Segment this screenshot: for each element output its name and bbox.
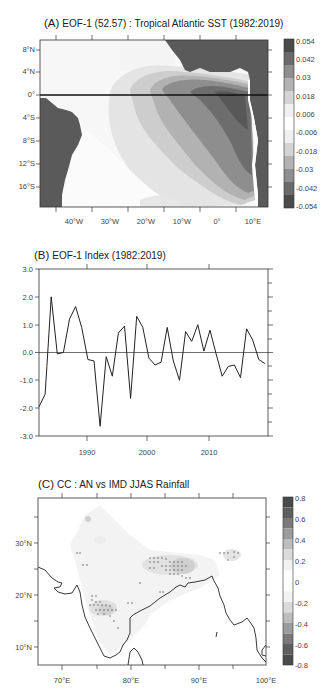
svg-text:-2.0: -2.0: [20, 404, 33, 413]
svg-text:-1.0: -1.0: [20, 376, 33, 385]
svg-text:10°W: 10°W: [173, 217, 192, 226]
svg-text:0.018: 0.018: [296, 92, 315, 101]
panel-a-title-text: EOF-1 (52.57) : Tropical Atlantic SST (1…: [62, 18, 283, 29]
svg-text:0.054: 0.054: [296, 37, 315, 46]
svg-text:0.4: 0.4: [295, 536, 305, 545]
panel-a: (A)EOF-1 (52.57) : Tropical Atlantic SST…: [19, 17, 318, 226]
panel-a-title: (A)EOF-1 (52.57) : Tropical Atlantic SST…: [44, 17, 283, 29]
panel-c-letter: (C): [38, 478, 54, 490]
figure-canvas: (A)EOF-1 (52.57) : Tropical Atlantic SST…: [0, 0, 330, 689]
svg-text:20°N: 20°N: [15, 591, 32, 600]
svg-text:30°N: 30°N: [15, 539, 32, 548]
svg-text:8°S: 8°S: [23, 136, 35, 145]
panel-c-x-axis: 70°E 80°E 90°E 100°E: [54, 676, 276, 685]
svg-text:-0.006: -0.006: [296, 128, 317, 137]
panel-b: (B)EOF-1 Index (1982:2019) 3.0 2.0 1.0 0…: [20, 249, 273, 457]
svg-text:0.006: 0.006: [296, 110, 315, 119]
svg-text:0°: 0°: [28, 90, 35, 99]
svg-text:70°E: 70°E: [54, 676, 70, 685]
svg-text:-0.03: -0.03: [296, 165, 313, 174]
svg-text:8°N: 8°N: [22, 45, 35, 54]
panel-b-x-axis: 1990 2000 2010: [79, 448, 218, 457]
sst-eof-map: [40, 40, 268, 207]
panel-c: (C)CC : AN vs IMD JJAS Rainfall: [15, 478, 308, 685]
svg-text:4°S: 4°S: [23, 113, 35, 122]
svg-text:-0.018: -0.018: [296, 147, 317, 156]
svg-text:2.0: 2.0: [23, 293, 33, 302]
svg-text:2010: 2010: [201, 448, 218, 457]
svg-text:10°N: 10°N: [15, 643, 32, 652]
panel-b-letter: (B): [34, 249, 50, 261]
svg-text:0°: 0°: [213, 217, 220, 226]
svg-text:0.0: 0.0: [23, 348, 33, 357]
svg-text:40°W: 40°W: [65, 217, 84, 226]
panel-b-title: (B)EOF-1 Index (1982:2019): [34, 249, 166, 261]
svg-text:0.03: 0.03: [296, 73, 311, 82]
panel-a-letter: (A): [44, 17, 60, 29]
svg-text:-0.054: -0.054: [296, 202, 317, 211]
panel-b-title-text: EOF-1 Index (1982:2019): [52, 250, 165, 261]
svg-text:-0.4: -0.4: [295, 620, 308, 629]
svg-text:20°W: 20°W: [137, 217, 156, 226]
svg-text:1990: 1990: [79, 448, 96, 457]
svg-text:-0.042: -0.042: [296, 184, 317, 193]
panel-c-colorbar: 0.8 0.6 0.4 0.2 0 -0.2 -0.4 -0.6 -0.8: [283, 494, 308, 670]
svg-text:90°E: 90°E: [191, 676, 207, 685]
svg-text:30°W: 30°W: [101, 217, 120, 226]
panel-c-title: (C)CC : AN vs IMD JJAS Rainfall: [38, 478, 189, 490]
svg-text:2000: 2000: [139, 448, 156, 457]
panel-a-colorbar: 0.054 0.042 0.03 0.018 0.006 -0.006 -0.0…: [284, 37, 317, 211]
rainfall-correlation-map: [38, 498, 266, 665]
svg-text:12°S: 12°S: [19, 159, 35, 168]
svg-text:-0.6: -0.6: [295, 641, 308, 650]
svg-text:0: 0: [295, 578, 299, 587]
svg-text:0.6: 0.6: [295, 515, 305, 524]
svg-text:1.0: 1.0: [23, 321, 33, 330]
svg-text:3.0: 3.0: [23, 265, 33, 274]
svg-text:0.2: 0.2: [295, 557, 305, 566]
svg-text:16°S: 16°S: [19, 182, 35, 191]
svg-text:80°E: 80°E: [123, 676, 139, 685]
svg-text:0.042: 0.042: [296, 55, 315, 64]
panel-c-title-text: CC : AN vs IMD JJAS Rainfall: [57, 479, 189, 490]
panel-a-y-axis: 8°N 4°N 0° 4°S 8°S 12°S 16°S: [19, 45, 35, 191]
svg-text:10°E: 10°E: [245, 217, 261, 226]
svg-text:100°E: 100°E: [256, 676, 277, 685]
svg-text:0.8: 0.8: [295, 494, 305, 503]
panel-a-x-axis: 40°W 30°W 20°W 10°W 0° 10°E: [65, 217, 261, 226]
svg-text:4°N: 4°N: [22, 67, 35, 76]
svg-text:-0.8: -0.8: [295, 661, 308, 670]
svg-text:-0.2: -0.2: [295, 599, 308, 608]
svg-text:-3.0: -3.0: [20, 432, 33, 441]
panel-c-y-axis: 30°N 20°N 10°N: [15, 539, 32, 652]
panel-b-y-axis: 3.0 2.0 1.0 0.0 -1.0 -2.0 -3.0: [20, 265, 33, 441]
